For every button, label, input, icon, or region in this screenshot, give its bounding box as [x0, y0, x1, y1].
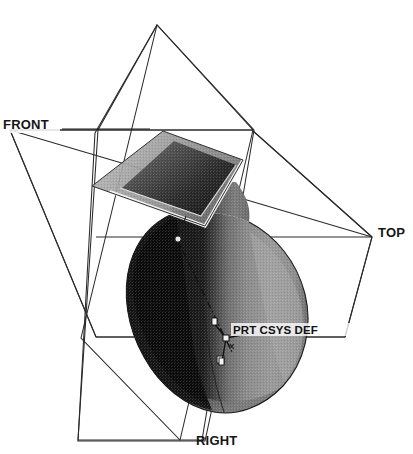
- datum-plane-top-edge-right-upper[interactable]: [252, 130, 372, 237]
- axis-handle-top[interactable]: [175, 236, 181, 242]
- csys-tick-up: [212, 318, 217, 325]
- datum-label-front-group[interactable]: FRONT: [2, 117, 150, 133]
- cad-viewport[interactable]: X PRT CSYS DEF FRONT TOP RIGHT: [0, 0, 413, 454]
- csys-axis-x-label: X: [229, 342, 235, 351]
- datum-label-top-group[interactable]: TOP: [375, 225, 409, 241]
- csys-label: PRT CSYS DEF: [233, 324, 318, 336]
- datum-label-right[interactable]: RIGHT: [196, 433, 237, 448]
- csys-tick-down: [219, 358, 224, 365]
- csys-origin-marker[interactable]: [223, 335, 229, 341]
- datum-label-front[interactable]: FRONT: [3, 117, 49, 132]
- cad-scene: X PRT CSYS DEF FRONT TOP RIGHT: [0, 0, 413, 454]
- datum-label-right-group[interactable]: RIGHT: [196, 433, 237, 448]
- datum-label-top[interactable]: TOP: [378, 225, 405, 240]
- datum-plane-top-edge-left[interactable]: [10, 130, 96, 337]
- datum-plane-top-edge-front[interactable]: [345, 237, 372, 337]
- solid-model[interactable]: [0, 0, 413, 454]
